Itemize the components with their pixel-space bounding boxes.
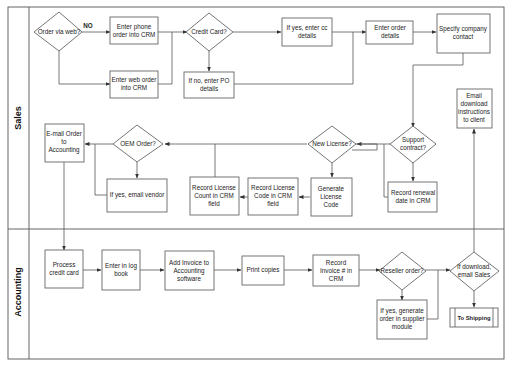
svg-text:If no, enter PO: If no, enter PO [189,77,230,84]
decision-new-license[interactable]: New License? [308,126,356,163]
process-record-invoice[interactable]: Record Invoice # in CRM [313,255,359,286]
svg-text:Reseller order?: Reseller order? [380,267,424,274]
process-enter-phone-order[interactable]: Enter phone order into CRM [110,17,158,44]
svg-text:download: download [461,100,488,107]
svg-text:If yes, generate: If yes, generate [380,307,424,315]
svg-text:If download,: If download, [457,263,491,270]
svg-text:book: book [114,270,129,277]
svg-text:details: details [381,32,399,39]
svg-text:order in supplier: order in supplier [379,315,424,323]
process-record-license-count[interactable]: Record License Count in CRM field [190,177,239,215]
svg-text:Code: Code [323,201,339,208]
svg-text:instructions: instructions [458,108,490,115]
svg-text:details: details [200,85,218,92]
svg-text:Enter phone: Enter phone [117,23,152,31]
svg-text:Support: Support [402,136,424,144]
svg-text:field: field [267,200,279,207]
svg-text:Add Invoice to: Add Invoice to [169,259,209,266]
process-add-invoice[interactable]: Add Invoice to Accounting software [165,251,214,290]
svg-text:Accounting: Accounting [48,146,80,154]
process-if-yes-email-vendor[interactable]: If yes, email vendor [107,179,167,212]
process-specify-company-contact[interactable]: Specify company contact [437,14,490,53]
svg-text:credit card: credit card [49,269,79,276]
svg-text:Record: Record [326,259,347,266]
svg-text:CRM: CRM [329,275,343,282]
svg-text:to: to [61,138,67,145]
svg-text:Order via web?: Order via web? [38,28,81,35]
no-branch-label: NO [83,22,93,29]
svg-text:Email: Email [466,92,482,99]
svg-text:software: software [177,275,201,282]
svg-text:Accounting: Accounting [173,267,205,275]
process-print-copies[interactable]: Print copies [242,256,284,285]
process-if-yes-supplier-order[interactable]: If yes, generate order in supplier modul… [377,300,427,339]
process-email-download-instructions[interactable]: Email download instructions to client [457,89,492,128]
svg-text:Count in CRM: Count in CRM [194,192,234,199]
svg-text:Enter order: Enter order [374,24,406,31]
svg-text:Record renewal: Record renewal [391,189,435,196]
process-process-credit-card[interactable]: Process credit card [45,250,83,288]
process-if-yes-cc[interactable]: If yes, enter cc details [282,18,332,46]
svg-text:Code in CRM: Code in CRM [254,192,292,199]
process-if-no-po[interactable]: If no, enter PO details [184,72,234,98]
svg-text:If yes, email vendor: If yes, email vendor [110,191,165,199]
lane-label-sales: Sales [13,106,23,130]
svg-text:OEM Order?: OEM Order? [120,140,156,147]
svg-text:E-mail Order: E-mail Order [46,130,82,137]
svg-text:module: module [392,323,413,330]
process-enter-web-order[interactable]: Enter web order into CRM [110,71,158,98]
decision-oem-order[interactable]: OEM Order? [113,125,163,162]
process-record-renewal-date[interactable]: Record renewal date in CRM [388,182,437,212]
svg-text:contract?: contract? [400,144,426,151]
svg-text:Generate: Generate [318,185,345,192]
svg-text:Specify company: Specify company [439,25,488,33]
svg-text:Credit Card?: Credit Card? [191,28,227,35]
svg-text:Record License: Record License [251,184,295,191]
svg-text:Invoice # in: Invoice # in [320,267,352,274]
process-email-order-to-accounting[interactable]: E-mail Order to Accounting [45,124,84,162]
svg-text:License: License [320,193,342,200]
svg-text:field: field [208,200,220,207]
swimlane-flowchart: Sales Accounting [0,0,515,372]
process-record-license-code[interactable]: Record License Code in CRM field [248,178,298,215]
svg-text:into CRM: into CRM [121,84,147,91]
process-generate-license-code[interactable]: Generate License Code [311,178,352,216]
svg-text:To Shipping: To Shipping [457,315,491,321]
decision-support-contract[interactable]: Support contract? [390,126,436,163]
decision-if-download-email-sales[interactable]: If download, email Sales [450,252,499,291]
svg-text:contact: contact [453,33,474,40]
svg-text:New License?: New License? [312,140,352,147]
svg-text:If yes, enter cc: If yes, enter cc [287,24,328,32]
process-enter-order-details[interactable]: Enter order details [366,21,413,44]
svg-text:order into CRM: order into CRM [113,31,156,38]
svg-text:Process: Process [53,261,76,268]
svg-text:Enter web order: Enter web order [112,76,157,83]
subprocess-to-shipping[interactable]: To Shipping [450,308,498,327]
svg-text:email Sales: email Sales [458,271,491,278]
svg-text:Enter in log: Enter in log [105,262,137,270]
svg-text:Print copies: Print copies [247,266,280,274]
svg-text:to client: to client [463,116,485,123]
decision-credit-card[interactable]: Credit Card? [186,13,233,51]
process-enter-log-book[interactable]: Enter in log book [102,250,140,290]
lane-label-accounting: Accounting [13,267,23,317]
svg-text:Record License: Record License [192,184,236,191]
decision-order-via-web[interactable]: Order via web? [34,12,82,51]
decision-reseller-order[interactable]: Reseller order? [379,252,426,290]
svg-text:details: details [298,32,316,39]
svg-text:date in CRM: date in CRM [396,197,431,204]
